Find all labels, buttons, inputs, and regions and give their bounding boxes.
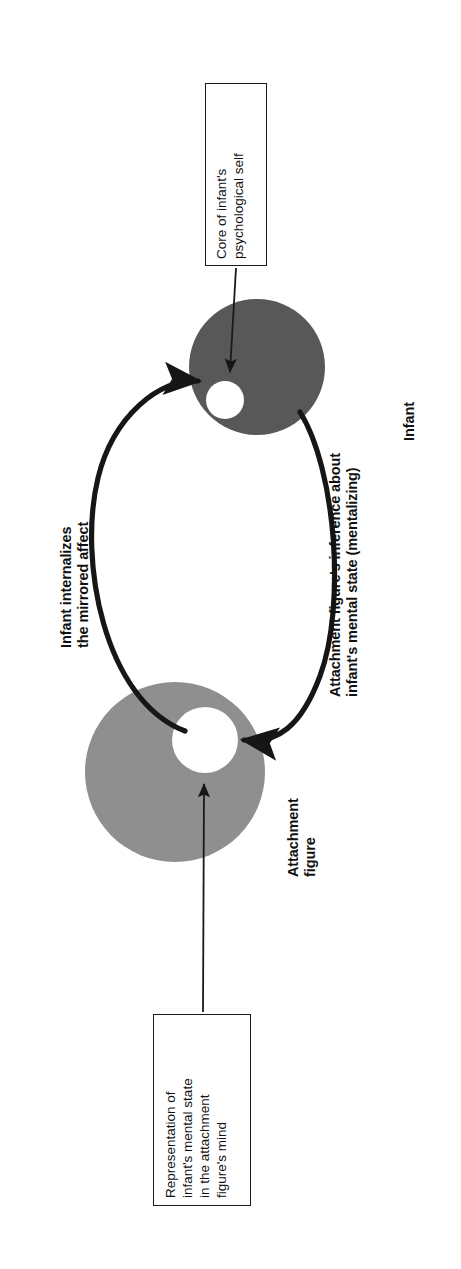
node-label-attachment-figure: Attachment figure (285, 798, 319, 877)
infant-circle (189, 299, 325, 435)
callout-representation-text: Representation of infant's mental state … (163, 1022, 231, 1198)
flow-label-mentalizing: Attachment figure's inference about infa… (327, 453, 361, 697)
arrow-mentalizing (244, 412, 335, 741)
flow-label-internalizes: Infant internalizes the mirrored affect (58, 522, 92, 648)
callout-core-of-self-text: Core of infant's psychological self (214, 91, 248, 259)
infant-core-circle (206, 381, 244, 419)
attachment-figure-circle (85, 682, 265, 862)
arrow-internalizes (92, 381, 198, 731)
diagram-canvas: Core of infant's psychological self Repr… (0, 0, 461, 1269)
callout-core-of-self: Core of infant's psychological self (205, 83, 267, 266)
callout-representation: Representation of infant's mental state … (153, 1014, 251, 1206)
attachment-figure-core-circle (172, 707, 238, 773)
node-label-infant: Infant (401, 402, 418, 441)
